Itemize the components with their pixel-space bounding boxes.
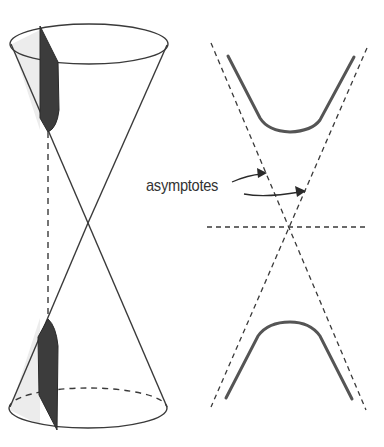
arrow-to-asymptote-1 — [232, 174, 262, 182]
asymptotes-label: asymptotes — [146, 176, 218, 196]
conic-section-diagram — [0, 0, 384, 447]
arrow-to-asymptote-2 — [244, 192, 300, 196]
lower-section — [38, 319, 58, 430]
double-cone — [9, 24, 168, 430]
arrow-head-1 — [257, 168, 267, 178]
hyperbola-upper-branch — [228, 56, 354, 132]
asymptotes — [207, 43, 367, 410]
lower-cone-right-side — [88, 223, 167, 407]
arrow-head-2 — [295, 186, 306, 197]
annotation-arrows — [232, 168, 306, 197]
upper-section — [40, 26, 59, 132]
upper-cone-right-side — [88, 45, 167, 223]
